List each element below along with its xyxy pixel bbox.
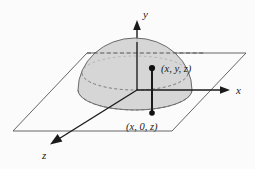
y-axis-label: y (142, 8, 148, 20)
point-lower-dot (149, 110, 155, 116)
point-upper-label: (x, y, z) (161, 63, 192, 75)
point-upper-dot (149, 65, 155, 71)
x-axis-label: x (235, 84, 241, 96)
hemisphere-coordinate-diagram: y x z (x, y, z) (x, 0, z) (0, 0, 255, 169)
point-lower-label: (x, 0, z) (126, 121, 158, 133)
figure-root: y x z (x, y, z) (x, 0, z) (0, 0, 255, 169)
z-axis-label: z (41, 149, 47, 161)
